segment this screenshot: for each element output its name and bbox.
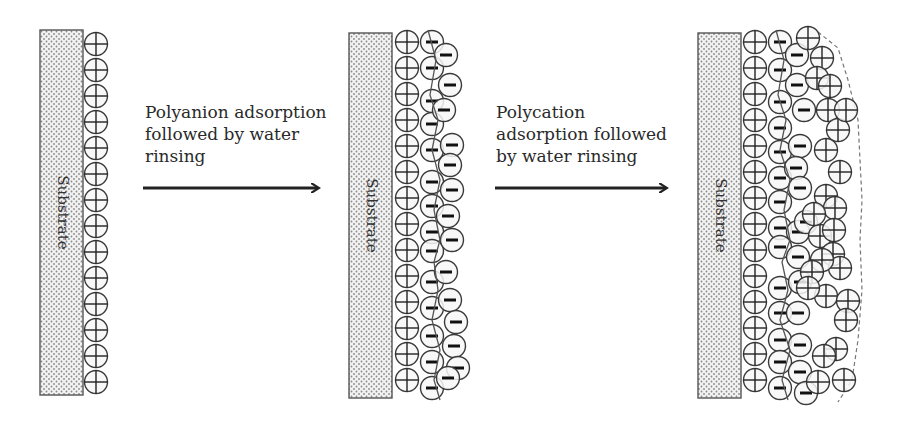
positive-charge-icon (744, 291, 767, 314)
positive-charge-icon (396, 83, 419, 106)
negative-charge-icon (789, 135, 812, 158)
positive-charge-icon (744, 369, 767, 392)
panel-3: Substrate (698, 27, 862, 405)
panel-2: Substrate (349, 30, 470, 400)
panels-layer: SubstrateSubstrateSubstrate (40, 27, 862, 405)
negative-charge-icon (769, 191, 792, 214)
negative-charge-icon (421, 325, 444, 348)
positive-charge-icon (396, 161, 419, 184)
negative-charge-icon (435, 44, 458, 67)
negative-charge-icon (785, 157, 808, 180)
negative-charge-icon (439, 154, 462, 177)
negative-charge-icon (443, 335, 466, 358)
positive-charge-icon (744, 343, 767, 366)
positive-charge-icon (85, 111, 108, 134)
negative-charge-icon (441, 179, 464, 202)
diagram-canvas: SubstrateSubstrateSubstrate (0, 0, 903, 426)
positive-charge-icon (744, 31, 767, 54)
negative-charge-icon (437, 205, 460, 228)
negative-charge-icon (769, 377, 792, 400)
positive-charge-icon (819, 75, 842, 98)
positive-charge-icon (396, 109, 419, 132)
step1-label: Polyanion adsorption followed by water r… (145, 101, 327, 167)
negative-charge-icon (433, 99, 456, 122)
positive-charge-icon (396, 317, 419, 340)
positive-charge-icon (85, 189, 108, 212)
positive-charge-icon (396, 57, 419, 80)
positive-charge-icon (744, 57, 767, 80)
substrate-label: Substrate (54, 175, 72, 249)
positive-charge-icon (85, 59, 108, 82)
panel-1: Substrate (40, 30, 108, 395)
positive-charge-icon (744, 317, 767, 340)
positive-charge-icon (824, 197, 847, 220)
negative-charge-icon (769, 329, 792, 352)
negative-charge-icon (793, 99, 816, 122)
positive-charge-icon (85, 319, 108, 342)
positive-charge-icon (85, 267, 108, 290)
positive-charge-icon (396, 135, 419, 158)
positive-charge-icon (835, 309, 858, 332)
positive-charge-icon (85, 293, 108, 316)
positive-charge-icon (85, 371, 108, 394)
positive-charge-icon (833, 369, 856, 392)
positive-charge-icon (744, 265, 767, 288)
negative-charge-icon (787, 302, 810, 325)
positive-charge-icon (744, 187, 767, 210)
substrate-label: Substrate (363, 178, 381, 252)
positive-charge-icon (803, 203, 826, 226)
positive-charge-icon (815, 139, 838, 162)
positive-charge-icon (85, 345, 108, 368)
positive-charge-icon (396, 239, 419, 262)
negative-charge-icon (439, 289, 462, 312)
step2-label: Polycation adsorption followed by water … (496, 101, 667, 167)
positive-charge-icon (811, 47, 834, 70)
positive-charge-icon (396, 291, 419, 314)
positive-charge-icon (744, 239, 767, 262)
positive-charge-icon (85, 215, 108, 238)
negative-charge-icon (789, 177, 812, 200)
negative-charge-icon (421, 240, 444, 263)
negative-charge-icon (441, 229, 464, 252)
negative-charge-icon (435, 261, 458, 284)
lbl-process-diagram: SubstrateSubstrateSubstrate Polyanion ad… (0, 0, 903, 426)
positive-charge-icon (744, 213, 767, 236)
positive-charge-icon (835, 99, 858, 122)
positive-charge-icon (85, 163, 108, 186)
positive-charge-icon (396, 213, 419, 236)
negative-charge-icon (789, 334, 812, 357)
negative-charge-icon (769, 117, 792, 140)
positive-charge-icon (744, 83, 767, 106)
positive-charge-icon (85, 85, 108, 108)
positive-charge-icon (823, 219, 846, 242)
positive-charge-icon (744, 135, 767, 158)
positive-charge-icon (744, 109, 767, 132)
positive-charge-icon (807, 371, 830, 394)
positive-charge-icon (85, 241, 108, 264)
substrate-label: Substrate (712, 178, 730, 252)
positive-charge-icon (813, 345, 836, 368)
positive-charge-icon (829, 161, 852, 184)
negative-charge-icon (437, 367, 460, 390)
positive-charge-icon (85, 137, 108, 160)
positive-charge-icon (85, 33, 108, 56)
negative-charge-icon (439, 74, 462, 97)
positive-charge-icon (744, 161, 767, 184)
positive-charge-icon (396, 31, 419, 54)
positive-charge-icon (797, 277, 820, 300)
negative-charge-icon (445, 311, 468, 334)
positive-charge-icon (396, 369, 419, 392)
positive-charge-icon (396, 187, 419, 210)
positive-charge-icon (797, 27, 820, 50)
positive-charge-icon (396, 265, 419, 288)
positive-charge-icon (396, 343, 419, 366)
